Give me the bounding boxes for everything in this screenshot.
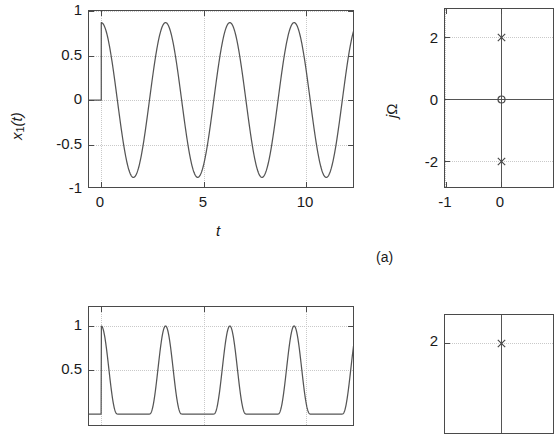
ytick-r-0p5: [348, 56, 353, 57]
pz-ytick-label-0: 0: [400, 92, 438, 107]
ytick-label-0p5: 0.5: [20, 47, 82, 62]
xtick-t-10: [306, 11, 307, 16]
pz-xtick-t-m1: [446, 9, 447, 14]
xtick-t-0: [101, 11, 102, 16]
signal-trace-x1: [89, 11, 354, 188]
ytick-label-m1: -1: [20, 180, 82, 195]
pz-ytick-0: [445, 99, 450, 100]
time-plot-axes-b: [88, 306, 354, 426]
pz-plot-axes-b: [444, 314, 554, 434]
xtick-10: [306, 182, 307, 187]
b-xtick-t-0: [101, 307, 102, 312]
pz-y-axis-title-j: j: [383, 115, 400, 118]
pole-marker-upper: [497, 33, 506, 42]
pz-ytick-label-2: 2: [400, 30, 438, 45]
time-plot-y-axis-title: x1(t): [8, 112, 26, 140]
signal-trace-x2: [89, 307, 354, 426]
pz-ytick-2: [445, 37, 450, 38]
pole-marker-lower: [497, 157, 506, 166]
ytick-r-m1: [348, 187, 353, 188]
ytick-r-1: [348, 11, 353, 12]
b-xtick-t-5: [204, 307, 205, 312]
subfigure-caption-a: (a): [376, 249, 393, 265]
ytick-m0p5: [89, 145, 94, 146]
b-pole-marker-upper: [497, 339, 506, 348]
b-pz-imaginary-axis: [501, 315, 502, 433]
pz-xtick-t-0: [501, 9, 502, 14]
pz-ytick-label-m2: -2: [400, 154, 438, 169]
time-plot-x-axis-title: t: [216, 222, 220, 239]
zero-marker-origin: [497, 95, 506, 104]
y-axis-title-paren: (t): [8, 112, 25, 126]
pz-xtick-label-m1: -1: [425, 194, 465, 209]
pz-xtick-0: [501, 182, 502, 187]
b-ytick-1: [89, 326, 94, 327]
b-ytick-0p5: [89, 370, 94, 371]
ytick-label-m0p5: -0.5: [20, 136, 82, 151]
y-axis-title-x: x: [8, 133, 25, 141]
pz-ytick-m2: [445, 161, 450, 162]
xtick-0: [101, 182, 102, 187]
pz-y-axis-title-omega: Ω: [383, 103, 400, 114]
xtick-label-10: 10: [285, 194, 325, 209]
ytick-label-0: 0: [20, 91, 82, 106]
b-ytick-label-0p5: 0.5: [20, 361, 82, 376]
b-ytick-label-1: 1: [20, 317, 82, 332]
ytick-0p5: [89, 56, 94, 57]
ytick-r-m0p5: [348, 145, 353, 146]
time-plot-axes-a: [88, 10, 354, 188]
xtick-t-5: [204, 11, 205, 16]
ytick-r-0: [348, 100, 353, 101]
ytick-1: [89, 11, 94, 12]
pz-plot-axes-a: [444, 8, 554, 188]
ytick-label-1: 1: [20, 2, 82, 17]
pz-xtick-m1: [446, 182, 447, 187]
pz-xtick-label-0: 0: [480, 194, 520, 209]
b-pz-ytick-label-2: 2: [400, 333, 438, 348]
b-pz-ytick-2: [445, 343, 450, 344]
xtick-label-0: 0: [80, 194, 120, 209]
xtick-label-5: 5: [183, 194, 223, 209]
b-ytick-r-1: [348, 326, 353, 327]
ytick-0: [89, 100, 94, 101]
y-axis-title-subscript: 1: [14, 126, 26, 132]
ytick-m1: [89, 187, 94, 188]
xtick-5: [204, 182, 205, 187]
pz-plot-y-axis-title: jΩ: [383, 103, 400, 118]
b-xtick-t-10: [306, 307, 307, 312]
